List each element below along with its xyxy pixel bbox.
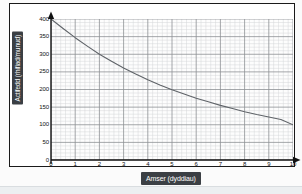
plot-area (51, 19, 293, 160)
y-tick-label: 150 (23, 104, 49, 111)
y-tick-label: 400 (23, 16, 49, 23)
x-axis-tick-labels: 012345678910 (10, 161, 296, 171)
x-tick-label: 10 (286, 161, 300, 168)
page-background: 050100150200250300350400 012345678910 Ac… (0, 0, 302, 194)
x-tick-label: 3 (117, 161, 131, 168)
figure-frame: 050100150200250300350400 012345678910 (9, 3, 295, 167)
x-tick-label: 7 (213, 161, 227, 168)
x-tick-label: 9 (262, 161, 276, 168)
x-tick-label: 8 (238, 161, 252, 168)
y-tick-label: 250 (23, 68, 49, 75)
x-tick-label: 0 (44, 161, 58, 168)
y-tick-label: 100 (23, 121, 49, 128)
x-axis-title: Amser (dyddiau) (141, 172, 201, 185)
y-axis-title: Actifedd (rhifiad/munud) (12, 32, 23, 105)
x-tick-label: 4 (141, 161, 155, 168)
x-tick-label: 6 (189, 161, 203, 168)
x-tick-label: 1 (68, 161, 82, 168)
y-tick-label: 350 (23, 33, 49, 40)
y-tick-label: 300 (23, 51, 49, 58)
y-axis-tick-labels: 050100150200250300350400 (21, 4, 49, 168)
x-tick-label: 5 (165, 161, 179, 168)
activity-decay-curve (51, 19, 293, 160)
page-bottom-edge (0, 186, 302, 194)
y-tick-label: 200 (23, 86, 49, 93)
x-tick-label: 2 (92, 161, 106, 168)
y-tick-label: 50 (23, 139, 49, 146)
